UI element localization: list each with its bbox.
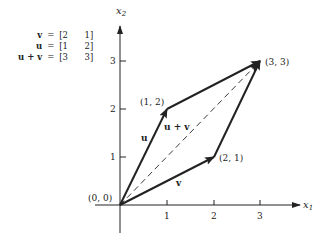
y-tick-label: 2 xyxy=(110,104,116,114)
point-u-label: (1, 2) xyxy=(140,97,164,107)
vector-u-label: u xyxy=(141,133,148,143)
y-ticks xyxy=(120,61,126,157)
vector-addition-diagram: 1 2 3 1 2 3 x1 x2 (0, 0) (1, 2) (2, 1) (… xyxy=(0,0,325,239)
x-tick-label: 1 xyxy=(164,211,170,221)
vector-u-translated xyxy=(214,61,260,157)
point-v-label: (2, 1) xyxy=(219,153,243,163)
origin-label: (0, 0) xyxy=(88,193,112,203)
vector-u xyxy=(120,109,167,205)
x-ticks xyxy=(167,200,260,205)
vector-v xyxy=(120,157,214,205)
vector-v-label: v xyxy=(175,178,182,188)
x-tick-label: 3 xyxy=(257,211,263,221)
x-axis-label: x1 xyxy=(303,199,313,212)
vector-v-translated xyxy=(167,61,260,109)
x-tick-label: 2 xyxy=(211,211,217,221)
y-tick-label: 3 xyxy=(110,56,116,66)
y-axis-label: x2 xyxy=(116,5,127,18)
y-tick-label: 1 xyxy=(110,152,116,162)
point-sum-label: (3, 3) xyxy=(265,57,289,67)
vector-sum-label: u + v xyxy=(164,122,190,132)
